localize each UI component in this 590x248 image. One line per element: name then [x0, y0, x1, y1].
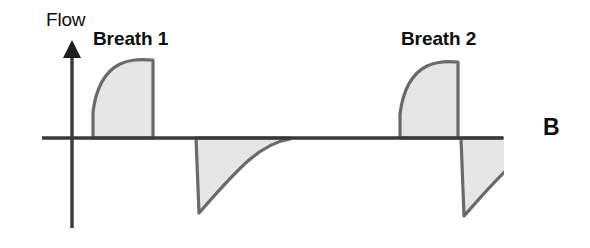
breath-1-label: Breath 1 [93, 29, 168, 48]
flow-time-waveform-plot [0, 0, 590, 248]
breath-1-inspiratory-area [93, 60, 153, 138]
flow-axis-label: Flow [46, 10, 85, 29]
flow-axis-arrow-icon [63, 40, 81, 58]
breath-2-inspiratory-area [400, 62, 458, 138]
breath-2-label: Breath 2 [401, 29, 476, 48]
breath-1-expiratory-area [196, 138, 290, 213]
flow-waveform-figure: Flow Breath 1 Breath 2 B [0, 0, 590, 248]
breath-2-expiratory-area [461, 138, 560, 216]
panel-label: B [543, 116, 560, 139]
